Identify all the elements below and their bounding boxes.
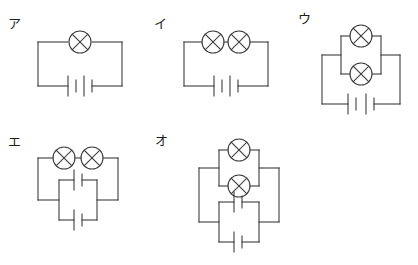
cropped-header-text-content [14,0,244,5]
circuit-diagram-o [185,140,295,252]
lamp-icon [202,31,224,53]
choice-label-i: イ [154,17,167,30]
choice-label-a: ア [8,17,21,30]
battery-cell-icon [234,192,242,212]
battery-cell-icon [366,94,374,114]
lamp-icon [228,31,250,53]
choice-label-e: エ [8,135,21,148]
battery-cell-icon [74,170,82,190]
battery-cell-icon [68,76,76,96]
lamp-icon [228,139,250,161]
battery-cell-icon [84,76,92,96]
lamp-icon [69,31,91,53]
cropped-header-text [14,0,244,6]
lamp-icon [81,147,103,169]
circuit-diagram-e [22,148,132,238]
lamp-icon [350,63,372,85]
battery-cell-icon [230,76,238,96]
lamp-icon [228,175,250,197]
battery-cell-icon [214,76,222,96]
circuit-diagram-a [34,34,126,96]
battery-cell-icon [74,210,82,230]
circuit-diagram-u [318,24,404,114]
lamp-icon [350,25,372,47]
choice-label-o: オ [155,134,168,147]
circuit-diagram-i [180,34,272,96]
battery-cell-icon [234,232,242,252]
lamp-icon [53,147,75,169]
battery-cell-icon [348,94,356,114]
choice-label-u: ウ [298,12,311,25]
